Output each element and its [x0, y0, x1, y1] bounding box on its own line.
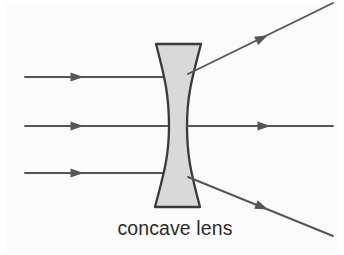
- ray-diagram-svg: concave lens: [0, 0, 344, 255]
- concave-lens-figure: concave lens: [0, 0, 344, 255]
- lens-caption-label: concave lens: [117, 217, 232, 239]
